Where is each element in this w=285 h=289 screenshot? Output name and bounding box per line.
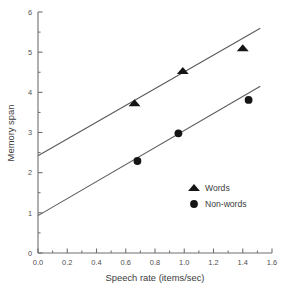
marker-non-words: [134, 157, 142, 165]
data-points: [129, 44, 253, 165]
y-axis-tick-labels: 0123456: [28, 8, 32, 258]
legend-label-words: Words: [205, 183, 230, 193]
y-tick-label: 0: [28, 249, 32, 258]
y-axis-title: Memory span: [5, 105, 16, 162]
marker-non-words: [245, 96, 253, 104]
marker-words: [237, 44, 249, 51]
y-tick-label: 1: [28, 209, 32, 218]
legend-marker-non-words: [190, 200, 198, 208]
y-axis-ticks: [38, 12, 43, 253]
scatter-plot: 0123456 0.00.20.40.60.81.01.21.41.6 Spee…: [0, 0, 285, 289]
x-tick-label: 0.0: [33, 258, 43, 267]
legend: WordsNon-words: [188, 183, 247, 209]
x-axis-tick-labels: 0.00.20.40.60.81.01.21.41.6: [33, 258, 277, 267]
x-tick-label: 0.8: [150, 258, 160, 267]
y-tick-label: 6: [28, 8, 32, 17]
axes: [38, 12, 272, 253]
legend-label-non-words: Non-words: [205, 199, 247, 209]
fit-line-words: [38, 28, 260, 156]
x-tick-label: 0.4: [91, 258, 101, 267]
x-tick-label: 1.4: [238, 258, 248, 267]
x-tick-label: 1.2: [208, 258, 218, 267]
chart-figure: 0123456 0.00.20.40.60.81.01.21.41.6 Spee…: [0, 0, 285, 289]
x-tick-label: 0.2: [62, 258, 72, 267]
y-tick-label: 5: [28, 48, 32, 57]
marker-non-words: [175, 129, 183, 137]
legend-marker-words: [188, 184, 200, 191]
y-tick-label: 4: [28, 88, 32, 97]
x-axis-ticks: [38, 249, 272, 254]
x-tick-label: 1.6: [267, 258, 277, 267]
x-tick-label: 1.0: [179, 258, 189, 267]
y-tick-label: 2: [28, 168, 32, 177]
fit-line-non-words: [38, 86, 260, 215]
y-tick-label: 3: [28, 128, 32, 137]
x-tick-label: 0.6: [121, 258, 131, 267]
x-axis-title: Speech rate (items/sec): [106, 272, 205, 283]
